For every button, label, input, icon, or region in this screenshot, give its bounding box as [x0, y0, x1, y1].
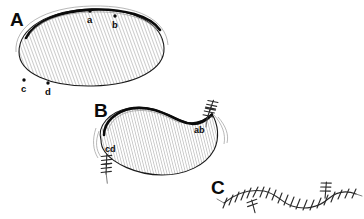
- panel-b: B ab cd: [94, 98, 228, 183]
- panel-c-tail-right: [356, 194, 362, 196]
- panel-a-point-c: c: [21, 78, 26, 94]
- surgical-figure: A a b c d: [0, 0, 364, 219]
- pair-label-cd: cd: [105, 144, 116, 154]
- panel-c-knot-right: [318, 181, 332, 199]
- point-dot-d: [46, 81, 49, 84]
- panel-c: C: [211, 177, 362, 214]
- point-label-c: c: [21, 83, 26, 94]
- panel-c-knot-left: [247, 199, 259, 213]
- point-dot-c: [22, 78, 25, 81]
- panel-a-point-d: d: [45, 81, 51, 97]
- point-label-a: a: [87, 14, 93, 25]
- point-label-b: b: [112, 19, 118, 30]
- point-dot-b: [113, 14, 116, 17]
- panel-b-wisp-left: [94, 128, 98, 158]
- pair-label-ab: ab: [194, 125, 205, 135]
- panel-c-tail-left: [217, 199, 224, 203]
- point-label-d: d: [45, 86, 51, 97]
- panel-a: A a b c d: [10, 6, 168, 97]
- figure-canvas: A a b c d: [0, 0, 364, 219]
- panel-letter-b: B: [94, 100, 108, 121]
- panel-c-stitches: [223, 187, 356, 210]
- panel-letter-c: C: [211, 177, 225, 198]
- panel-letter-a: A: [10, 9, 24, 30]
- point-dot-a: [88, 9, 91, 12]
